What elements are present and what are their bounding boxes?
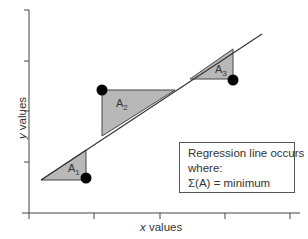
annotation-line-1: Regression line occurs: [188, 146, 294, 161]
area-a2: [102, 90, 175, 136]
data-point: [81, 173, 92, 184]
annotation-line-2: where:: [188, 161, 294, 176]
x-axis-title: x values: [140, 221, 182, 233]
data-point: [228, 75, 239, 86]
regression-diagram: A1 A2 A3: [0, 0, 308, 239]
annotation-line-3: Σ(A) = minimum: [188, 176, 294, 191]
y-axis-title: y values: [16, 88, 28, 148]
data-point: [97, 85, 108, 96]
annotation-box: Regression line occurs where: Σ(A) = min…: [179, 142, 295, 193]
